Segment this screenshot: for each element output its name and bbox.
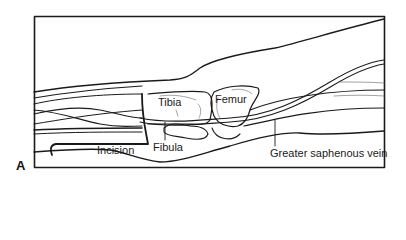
tendon-line	[34, 110, 142, 127]
thigh-muscle-line	[250, 90, 384, 110]
femur-outline	[211, 86, 259, 127]
tendon-line	[34, 132, 142, 134]
incision-label: Incision	[97, 145, 134, 156]
tibia-label: Tibia	[158, 97, 181, 108]
greater-saphenous-vein-label: Greater saphenous vein	[270, 148, 387, 159]
femur-label: Femur	[215, 94, 247, 105]
panel-letter: A	[16, 159, 25, 172]
fibula-label: Fibula	[153, 142, 183, 153]
fibula-outline	[164, 124, 208, 139]
thigh-muscle-line	[334, 82, 384, 96]
femur-condyle-lower	[212, 128, 240, 139]
greater-saphenous-vein	[140, 64, 384, 125]
tendon-line	[34, 128, 142, 130]
tendon-line	[34, 108, 142, 118]
